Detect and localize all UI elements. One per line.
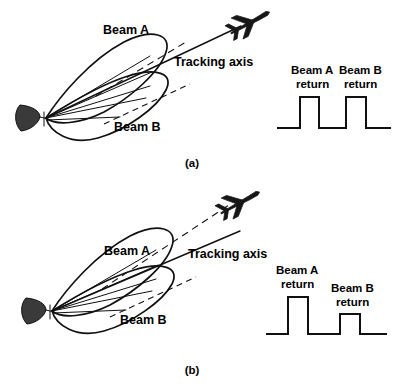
pulse-train-a: Beam A return Beam B return	[277, 64, 391, 128]
tracking-axis-label: Tracking axis	[188, 247, 267, 261]
pulse-waveform	[277, 97, 391, 128]
pulse-beam-b-label-line2: return	[344, 78, 377, 90]
aircraft-icon	[213, 181, 265, 223]
pulse-beam-b-label-line2: return	[336, 296, 369, 308]
parabolic-dish-icon	[22, 298, 54, 324]
pulse-beam-a-label-line2: return	[296, 78, 329, 90]
pulse-beam-a-label-line1: Beam A	[291, 64, 333, 76]
radar-tracking-diagram: Beam A Beam B Tracking axis Beam A retur…	[0, 0, 401, 389]
tracking-axis-line	[52, 231, 240, 311]
panel-a-caption: (a)	[185, 157, 199, 169]
pulse-beam-a-label-line2: return	[281, 278, 314, 290]
tracking-axis-line	[46, 26, 241, 118]
panel-b: Beam A Beam B Tracking axis Beam A retur…	[22, 181, 387, 376]
tracking-axis-label: Tracking axis	[174, 55, 253, 69]
beam-a-label: Beam A	[103, 23, 149, 37]
figure-container: Beam A Beam B Tracking axis Beam A retur…	[0, 0, 401, 389]
pulse-beam-a-label-line1: Beam A	[276, 264, 318, 276]
aircraft-icon	[223, 1, 275, 43]
panel-b-caption: (b)	[185, 364, 200, 376]
beam-a-label: Beam A	[104, 244, 150, 258]
panel-a: Beam A Beam B Tracking axis Beam A retur…	[16, 1, 391, 169]
pulse-beam-b-label-line1: Beam B	[339, 64, 382, 76]
pulse-train-b: Beam A return Beam B return	[266, 264, 387, 334]
beam-b-label: Beam B	[114, 120, 161, 134]
pulse-beam-b-label-line1: Beam B	[331, 282, 374, 294]
parabolic-dish-icon	[16, 105, 48, 131]
beam-b-label: Beam B	[120, 313, 167, 327]
